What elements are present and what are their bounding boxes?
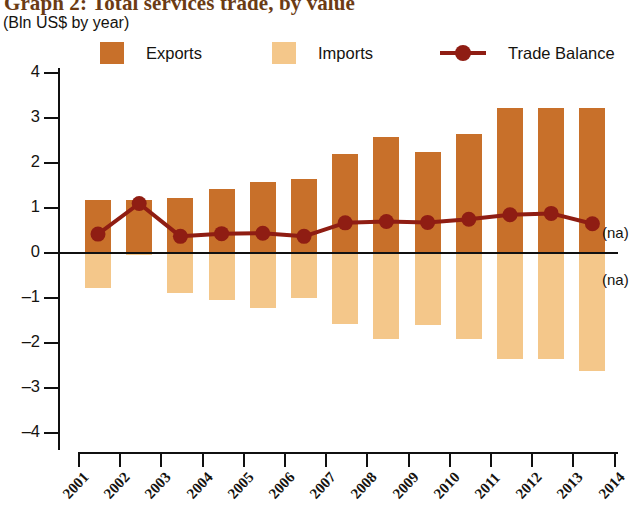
- x-tick-label: 2009: [389, 469, 422, 503]
- na-annotation: (na): [602, 224, 629, 241]
- x-tick: [572, 452, 574, 467]
- chart-subtitle: (Bln US$ by year): [3, 14, 129, 32]
- trade-balance-marker: [173, 229, 188, 244]
- trade-balance-line: [0, 60, 644, 460]
- trade-balance-marker: [420, 215, 435, 230]
- x-tick-label: 2010: [430, 469, 463, 503]
- x-tick-label: 2001: [60, 469, 93, 503]
- x-tick: [243, 452, 245, 467]
- x-tick-label: 2007: [307, 469, 340, 503]
- x-tick: [449, 452, 451, 467]
- x-tick-label: 2008: [348, 469, 381, 503]
- x-tick: [408, 452, 410, 467]
- x-tick-label: 2013: [554, 469, 587, 503]
- x-tick: [119, 452, 121, 467]
- x-tick-label: 2002: [101, 469, 134, 503]
- na-annotation: (na): [602, 271, 629, 288]
- chart-plot-area: 43210–1–2–3–4 (na)(na): [0, 60, 644, 460]
- trade-balance-marker: [255, 226, 270, 241]
- x-tick: [160, 452, 162, 467]
- trade-balance-marker: [297, 229, 312, 244]
- trade-balance-marker: [338, 215, 353, 230]
- x-tick-label: 2006: [266, 469, 299, 503]
- x-tick: [284, 452, 286, 467]
- trade-balance-marker: [379, 214, 394, 229]
- trade-balance-marker: [214, 226, 229, 241]
- x-tick-label: 2014: [595, 469, 628, 503]
- x-tick: [531, 452, 533, 467]
- x-tick: [78, 452, 80, 467]
- trade-balance-marker: [132, 196, 147, 211]
- x-axis-line: [78, 452, 618, 454]
- x-tick-label: 2004: [183, 469, 216, 503]
- x-tick-label: 2003: [142, 469, 175, 503]
- trade-balance-marker: [461, 212, 476, 227]
- x-tick: [202, 452, 204, 467]
- x-tick: [325, 452, 327, 467]
- x-tick: [366, 452, 368, 467]
- x-tick-label: 2011: [472, 470, 504, 503]
- x-tick-label: 2005: [224, 469, 257, 503]
- x-axis: 2001200220032004200520062007200820092010…: [0, 452, 644, 511]
- trade-balance-marker: [585, 216, 600, 231]
- x-tick: [614, 452, 616, 467]
- trade-balance-marker: [544, 206, 559, 221]
- trade-balance-marker: [503, 207, 518, 222]
- x-tick-label: 2012: [513, 469, 546, 503]
- x-tick: [490, 452, 492, 467]
- trade-balance-marker: [91, 227, 106, 242]
